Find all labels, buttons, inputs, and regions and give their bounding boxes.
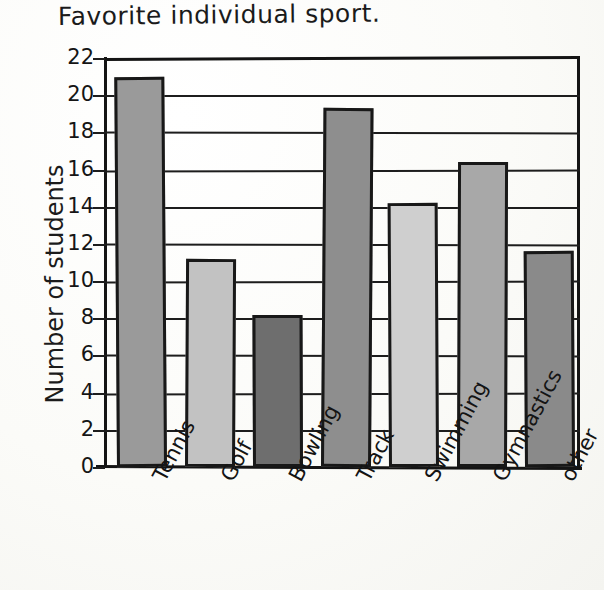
- y-axis-tick-label: 16: [67, 157, 94, 181]
- y-axis-tick-labels: 2220181614121086420: [42, 58, 94, 467]
- y-axis-tick-label: 18: [67, 119, 94, 143]
- y-axis-tick-label: 6: [81, 342, 94, 366]
- y-axis-tick-label: 22: [67, 45, 94, 69]
- y-axis-tick: [93, 467, 105, 469]
- y-axis-tick-label: 14: [67, 194, 94, 218]
- bar-series: [104, 58, 580, 467]
- y-axis-tick-label: 20: [67, 82, 94, 106]
- bar-swimming: [388, 203, 439, 467]
- y-axis-tick-label: 2: [81, 417, 94, 441]
- x-axis-tick-labels: TennisGolfBowlingTrackSwimmingGymnastics…: [104, 472, 604, 590]
- y-axis-tick-label: 8: [81, 305, 94, 329]
- chart-title: Favorite individual sport.: [58, 0, 381, 31]
- bar-bowling: [252, 314, 303, 467]
- y-axis-tick-label: 4: [81, 380, 94, 404]
- y-axis-tick-label: 10: [67, 268, 94, 292]
- bar-chart: Favorite individual sport. Number of stu…: [0, 0, 604, 590]
- bar-tennis: [114, 76, 167, 467]
- y-axis-tick-label: 12: [67, 231, 94, 255]
- y-axis-tick-label: 0: [81, 454, 94, 478]
